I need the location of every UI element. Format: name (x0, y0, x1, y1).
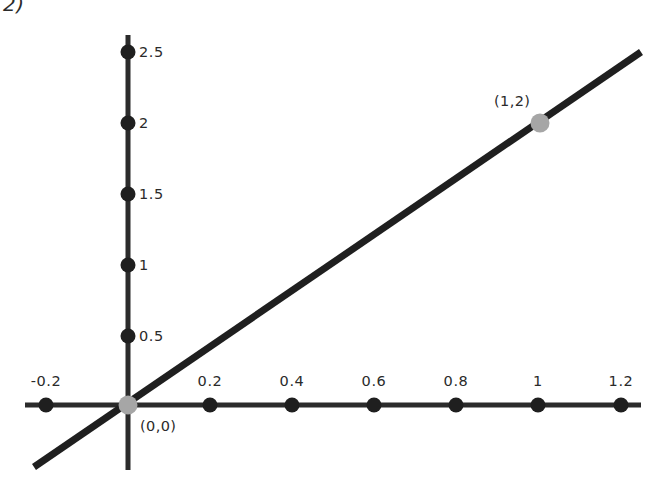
x-tick-dot-0.2 (203, 398, 218, 413)
x-tick-label-0.8: 0.8 (444, 373, 469, 389)
x-tick-dot-0.4 (285, 398, 300, 413)
y-tick-dot-1 (121, 258, 136, 273)
x-tick-label-0.6: 0.6 (362, 373, 387, 389)
x-tick-dot-1 (531, 398, 546, 413)
x-tick-label-1: 1 (533, 373, 543, 389)
y-tick-label-2.5: 2.5 (139, 44, 164, 60)
x-tick-dot-1.2 (614, 398, 629, 413)
y-tick-label-1.5: 1.5 (139, 186, 164, 202)
y-tick-dot-1.5 (121, 187, 136, 202)
y-tick-label-2: 2 (139, 115, 149, 131)
x-tick-label-0.2: 0.2 (198, 373, 223, 389)
annotation-label-origin: (0,0) (140, 418, 176, 434)
x-tick-label-1.2: 1.2 (609, 373, 634, 389)
x-tick-dot-0.6 (367, 398, 382, 413)
y-tick-label-0.5: 0.5 (139, 328, 164, 344)
x-tick-label--0.2: -0.2 (31, 373, 62, 389)
x-tick-label-0.4: 0.4 (280, 373, 305, 389)
annotation-label-1-2: (1,2) (494, 93, 530, 109)
point-marker-1-2 (531, 114, 550, 133)
y-tick-dot-0.5 (121, 329, 136, 344)
x-tick-dot--0.2 (39, 398, 54, 413)
point-marker-origin (119, 396, 138, 415)
line-graph-plot (0, 0, 657, 487)
x-tick-dot-0.8 (449, 398, 464, 413)
y-tick-dot-2.5 (121, 45, 136, 60)
chart-screenshot: 2) 2.5 2 1.5 1 0.5 -0.2 0.2 0.4 0.6 0.8 … (0, 0, 657, 487)
y-tick-label-1: 1 (139, 257, 149, 273)
y-tick-dot-2 (121, 116, 136, 131)
